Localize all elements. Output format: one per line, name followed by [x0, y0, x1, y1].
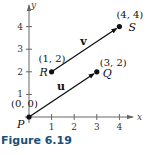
point-S [117, 24, 122, 29]
y-tick-label: 3 [17, 44, 23, 54]
point-label-R: R [39, 66, 48, 79]
point-P [26, 114, 31, 119]
vector-label-v: v [79, 35, 87, 48]
coord-label-R: (1, 2) [39, 53, 66, 64]
y-tick-label: 4 [17, 22, 23, 32]
x-tick-label: 4 [117, 122, 123, 132]
coord-label-P: (0, 0) [11, 98, 38, 109]
vector-diagram: xy 12341234 uvP(0, 0)Q(3, 2)R(1, 2)S(4, … [0, 0, 150, 134]
figure-caption: Figure 6.19 [1, 134, 72, 147]
vector-label-u: u [57, 80, 65, 93]
coord-label-Q: (3, 2) [100, 57, 127, 68]
x-tick-label: 2 [71, 122, 77, 132]
x-tick-label: 1 [49, 122, 55, 132]
y-axis-label: y [30, 0, 37, 10]
point-label-P: P [16, 118, 25, 131]
x-axis-label: x [137, 112, 142, 122]
point-Q [94, 69, 99, 74]
point-label-S: S [128, 21, 136, 34]
coord-label-S: (4, 4) [116, 9, 143, 20]
x-tick-label: 3 [94, 122, 100, 132]
point-R [49, 69, 54, 74]
y-tick-label: 2 [17, 67, 23, 77]
point-label-Q: Q [103, 67, 112, 80]
